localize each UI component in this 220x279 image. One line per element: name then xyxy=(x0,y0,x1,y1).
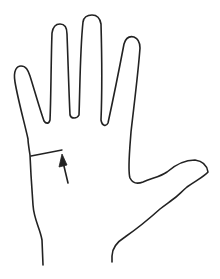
marker-line xyxy=(31,150,62,156)
arrowhead-icon xyxy=(59,154,67,167)
hand-outline xyxy=(14,15,208,265)
hand-outline-svg xyxy=(0,0,220,279)
hand-diagram xyxy=(0,0,220,279)
